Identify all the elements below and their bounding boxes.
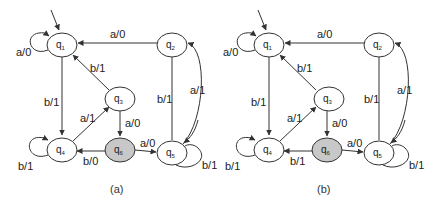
edge-label-q6-q5: a/0 [347, 137, 362, 149]
edge-label-q2-q1: a/0 [317, 28, 332, 40]
state-q3: q3 [314, 87, 344, 111]
edge-label-q3-q6: a/0 [125, 117, 140, 129]
edge-label-q3-q1: b/1 [297, 62, 312, 74]
edge-label-q4-q3: a/1 [80, 112, 95, 124]
caption-b: (b) [317, 183, 330, 195]
panel-a: a/0 b/1 a/0 b/1 b/1 a/0 b/1 a/1 b/0 a/0 … [16, 10, 217, 195]
edge-label-q6-q4: b/1 [290, 155, 305, 167]
caption-a: (a) [110, 183, 123, 195]
edge-q4-q4 [236, 137, 255, 156]
edge-label-q4-q4: b/1 [18, 160, 33, 172]
edge-label-q5-q5: b/1 [202, 159, 217, 171]
state-q6: q6 [105, 138, 135, 162]
state-q2: q2 [364, 33, 394, 57]
panel-b: a/0 b/1 a/0 b/1 b/1 a/0 b/1 a/1 b/1 a/0 … [223, 10, 424, 195]
state-q5: q5 [364, 141, 394, 165]
edge-label-q2-q1: a/0 [110, 28, 125, 40]
initial-arrow-q1 [258, 10, 266, 30]
edge-label-q1-q4: b/1 [44, 96, 59, 108]
state-q4: q4 [47, 138, 77, 162]
edge-label-q1-q1: a/0 [16, 46, 31, 58]
state-q2: q2 [157, 33, 187, 57]
edge-label-q1-q1: a/0 [223, 46, 238, 58]
initial-arrow-q1 [51, 10, 59, 30]
edge-label-q4-q4: b/1 [225, 160, 240, 172]
edge-label-q5-q5: b/1 [409, 159, 424, 171]
state-q6: q6 [312, 138, 342, 162]
edge-label-q4-q3: a/1 [287, 112, 302, 124]
edge-label-q3-q6: a/0 [332, 117, 347, 129]
edge-label-q1-q4: b/1 [251, 96, 266, 108]
state-q1: q1 [47, 33, 77, 57]
edge-q1-q1 [30, 33, 49, 52]
edge-label-q2-q5: b/1 [364, 93, 379, 105]
edge-label-q6-q4: b/0 [83, 155, 98, 167]
edge-q6-q5 [135, 150, 156, 152]
fsm-diagram: a/0 b/1 a/0 b/1 b/1 a/0 b/1 a/1 b/0 a/0 … [0, 0, 443, 209]
edge-label-q5-q2: a/1 [397, 84, 412, 96]
state-q3: q3 [105, 87, 135, 111]
edge-q1-q1 [237, 33, 256, 52]
state-q4: q4 [254, 138, 284, 162]
edge-label-q5-q2: a/1 [190, 84, 205, 96]
edge-label-q3-q1: b/1 [90, 62, 105, 74]
state-q5: q5 [157, 141, 187, 165]
edge-q4-q4 [29, 137, 48, 156]
edge-label-q2-q5: b/1 [157, 93, 172, 105]
edge-label-q6-q5: a/0 [140, 137, 155, 149]
state-q1: q1 [254, 33, 284, 57]
edge-q6-q5 [342, 150, 363, 152]
